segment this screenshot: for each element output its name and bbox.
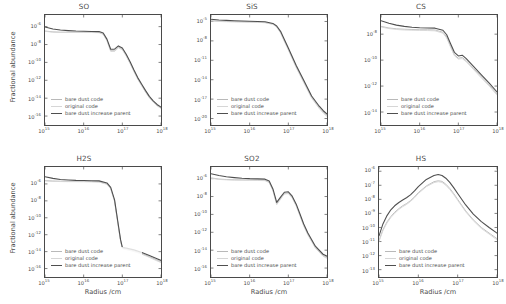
x-tick-label: 1017	[452, 279, 464, 287]
panel-sis: SiS 10-510-810-1110-1410-1710-20 1015101…	[168, 0, 336, 152]
legend-swatch-icon	[51, 258, 62, 259]
x-tick-label: 1016	[412, 279, 424, 287]
legend-swatch-icon	[51, 106, 62, 107]
y-tick-label: 10-6	[197, 175, 208, 181]
x-ticks-so: 1015101610171018	[44, 127, 162, 135]
panel-so: SO 10-610-810-1010-1210-1410-16 10151016…	[0, 0, 168, 152]
legend-label: bare dust increase parent	[65, 110, 131, 117]
legend-label: bare dust increase parent	[399, 262, 465, 269]
legend-item: bare dust code	[217, 248, 306, 255]
legend-item: bare dust increase parent	[217, 262, 306, 269]
x-tick-label: 1017	[117, 127, 129, 135]
x-tick-label: 1015	[38, 279, 50, 287]
x-ticks-h2s: 1015101610171018	[44, 279, 162, 287]
x-ticks-so2: 1015101610171018	[210, 279, 328, 287]
panel-so2: SO2 10-610-810-1010-1210-1410-16 1015101…	[168, 152, 336, 304]
y-tick-label: 10-11	[362, 239, 375, 245]
y-tick-label: 10-10	[362, 225, 375, 231]
legend-item: original code	[387, 103, 476, 110]
legend-h2s: bare dust codeoriginal codebare dust inc…	[50, 247, 142, 272]
legend-swatch-icon	[387, 99, 398, 100]
x-tick-label: 1018	[322, 127, 334, 135]
legend-item: original code	[51, 103, 140, 110]
legend-item: bare dust code	[51, 96, 140, 103]
panel-title-h2s: H2S	[0, 154, 168, 163]
x-tick-label: 1018	[492, 127, 504, 135]
legend-item: bare dust increase parent	[387, 110, 476, 117]
legend-label: bare dust code	[65, 96, 103, 103]
legend-item: bare dust increase parent	[217, 110, 306, 117]
legend-swatch-icon	[385, 251, 396, 252]
y-tick-label: 10-6	[365, 167, 376, 173]
legend-label: bare dust increase parent	[65, 262, 131, 269]
legend-item: original code	[385, 255, 476, 262]
x-tick-label: 1016	[78, 279, 90, 287]
y-tick-label: 10-14	[194, 248, 207, 254]
x-tick-label: 1016	[244, 279, 256, 287]
y-ticks-sis: 10-510-810-1110-1410-1710-20	[176, 14, 207, 126]
legend-swatch-icon	[51, 265, 62, 266]
y-tick-label: 10-8	[31, 197, 42, 203]
panel-title-sis: SiS	[168, 2, 336, 11]
y-tick-label: 10-8	[197, 37, 208, 43]
y-tick-label: 10-20	[194, 116, 207, 122]
panel-hs: HS 10-610-710-810-910-1010-1110-1210-13 …	[336, 152, 506, 304]
legend-swatch-icon	[217, 258, 228, 259]
y-tick-label: 10-12	[28, 232, 41, 238]
x-tick-label: 1017	[283, 279, 295, 287]
legend-label: bare dust code	[231, 248, 269, 255]
legend-item: bare dust increase parent	[51, 110, 140, 117]
y-tick-label: 10-12	[364, 83, 377, 89]
legend-item: bare dust increase parent	[385, 262, 476, 269]
legend-swatch-icon	[51, 99, 62, 100]
x-tick-label: 1015	[38, 127, 50, 135]
x-tick-label: 1018	[492, 279, 504, 287]
x-tick-label: 1018	[156, 279, 168, 287]
y-tick-label: 10-6	[31, 180, 42, 186]
legend-so2: bare dust codeoriginal codebare dust inc…	[216, 247, 308, 272]
y-tick-label: 10-8	[365, 196, 376, 202]
y-tick-label: 10-8	[367, 31, 378, 37]
legend-label: bare dust increase parent	[231, 262, 297, 269]
y-tick-label: 10-10	[194, 211, 207, 217]
x-axis-label-hs: Radius /cm	[378, 288, 498, 297]
panel-title-hs: HS	[336, 154, 506, 163]
x-tick-label: 1017	[453, 127, 465, 135]
legend-swatch-icon	[385, 258, 396, 259]
x-ticks-sis: 1015101610171018	[210, 127, 328, 135]
y-ticks-so2: 10-610-810-1010-1210-1410-16	[176, 166, 207, 278]
y-tick-label: 10-14	[194, 77, 207, 83]
legend-swatch-icon	[217, 106, 228, 107]
legend-swatch-icon	[385, 265, 396, 266]
y-tick-label: 10-14	[28, 96, 41, 102]
y-tick-label: 10-12	[194, 229, 207, 235]
legend-hs: bare dust codeoriginal codebare dust inc…	[384, 247, 478, 272]
x-tick-label: 1015	[374, 127, 386, 135]
x-tick-label: 1015	[204, 279, 216, 287]
y-tick-label: 10-16	[28, 114, 41, 120]
legend-swatch-icon	[387, 106, 398, 107]
legend-cs: bare dust codeoriginal codebare dust inc…	[386, 95, 478, 120]
y-tick-label: 10-5	[197, 18, 208, 24]
y-tick-label: 10-9	[365, 210, 376, 216]
legend-label: bare dust code	[401, 96, 439, 103]
figure-sulphur-abundances: Fractional abundance Fractional abundanc…	[0, 0, 506, 304]
legend-so: bare dust codeoriginal codebare dust inc…	[50, 95, 142, 120]
y-tick-label: 10-12	[28, 77, 41, 83]
y-tick-label: 10-11	[194, 57, 207, 63]
legend-label: bare dust code	[65, 248, 103, 255]
y-tick-label: 10-17	[194, 97, 207, 103]
legend-label: bare dust increase parent	[231, 110, 297, 117]
panel-h2s: H2S 10-610-810-1010-1210-1410-16 1015101…	[0, 152, 168, 304]
x-tick-label: 1018	[156, 127, 168, 135]
y-tick-label: 10-16	[194, 266, 207, 272]
y-tick-label: 10-10	[364, 57, 377, 63]
legend-label: original code	[65, 255, 98, 262]
legend-label: original code	[65, 103, 98, 110]
legend-swatch-icon	[51, 113, 62, 114]
x-tick-label: 1017	[283, 127, 295, 135]
x-axis-label-h2s: Radius /cm	[44, 288, 162, 297]
legend-label: bare dust increase parent	[401, 110, 467, 117]
x-tick-label: 1018	[322, 279, 334, 287]
y-ticks-so: 10-610-810-1010-1210-1410-16	[10, 14, 41, 126]
